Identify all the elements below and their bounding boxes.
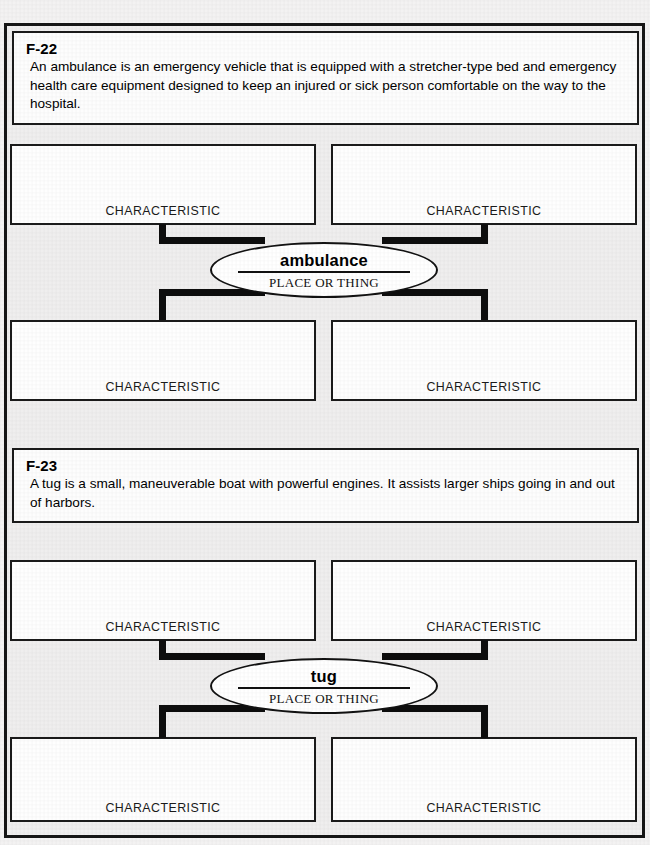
- connector-f22-top-right-horizontal: [382, 237, 488, 244]
- characteristic-box-f23-bottom-right[interactable]: CHARACTERISTIC: [331, 737, 637, 822]
- prompt-text-f23: A tug is a small, maneuverable boat with…: [26, 475, 625, 512]
- characteristic-box-f22-bottom-right[interactable]: CHARACTERISTIC: [331, 320, 637, 401]
- prompt-box-f23: F-23 A tug is a small, maneuverable boat…: [12, 448, 639, 523]
- center-node-term: ambulance: [280, 251, 368, 269]
- characteristic-box-f22-top-right[interactable]: CHARACTERISTIC: [331, 144, 637, 225]
- characteristic-box-f23-top-right[interactable]: CHARACTERISTIC: [331, 560, 637, 641]
- center-node-term: tug: [311, 667, 337, 685]
- center-node-kind: PLACE OR THING: [269, 275, 379, 290]
- prompt-text-f22: An ambulance is an emergency vehicle tha…: [26, 58, 625, 114]
- center-node-divider: [238, 687, 410, 689]
- characteristic-label: CHARACTERISTIC: [12, 620, 314, 634]
- characteristic-box-f22-bottom-left[interactable]: CHARACTERISTIC: [10, 320, 316, 401]
- connector-f22-top-left-horizontal: [159, 237, 265, 244]
- prompt-box-f22: F-22 An ambulance is an emergency vehicl…: [12, 31, 639, 125]
- characteristic-box-f23-bottom-left[interactable]: CHARACTERISTIC: [10, 737, 316, 822]
- characteristic-label: CHARACTERISTIC: [12, 204, 314, 218]
- characteristic-label: CHARACTERISTIC: [333, 204, 635, 218]
- center-node-divider: [238, 271, 410, 273]
- prompt-code-f23: F-23: [26, 457, 625, 474]
- worksheet-page: F-22 An ambulance is an emergency vehicl…: [0, 0, 650, 845]
- center-node-f23[interactable]: tug PLACE OR THING: [210, 658, 438, 714]
- characteristic-box-f22-top-left[interactable]: CHARACTERISTIC: [10, 144, 316, 225]
- prompt-code-f22: F-22: [26, 40, 625, 57]
- characteristic-label: CHARACTERISTIC: [333, 620, 635, 634]
- center-node-kind: PLACE OR THING: [269, 691, 379, 706]
- characteristic-label: CHARACTERISTIC: [333, 380, 635, 394]
- characteristic-box-f23-top-left[interactable]: CHARACTERISTIC: [10, 560, 316, 641]
- connector-f23-top-left-horizontal: [159, 653, 265, 660]
- center-node-f22[interactable]: ambulance PLACE OR THING: [210, 242, 438, 298]
- characteristic-label: CHARACTERISTIC: [333, 801, 635, 815]
- connector-f23-top-right-horizontal: [382, 653, 488, 660]
- characteristic-label: CHARACTERISTIC: [12, 801, 314, 815]
- characteristic-label: CHARACTERISTIC: [12, 380, 314, 394]
